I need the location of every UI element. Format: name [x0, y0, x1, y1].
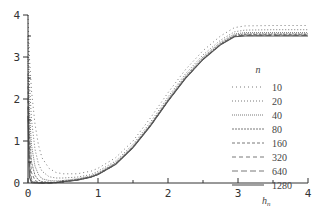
axes-group: 0123401234	[13, 9, 311, 200]
legend-label-80: 80	[272, 124, 282, 135]
x-tick-label: 2	[165, 187, 172, 200]
curves-group	[28, 15, 308, 183]
y-tick-label: 3	[13, 51, 20, 64]
x-tick-label: 1	[95, 187, 102, 200]
legend-label-160: 160	[272, 138, 287, 149]
legend-title: n	[256, 64, 261, 75]
series-line-160	[28, 35, 308, 183]
y-tick-label: 4	[13, 9, 20, 22]
legend-label-320: 320	[272, 152, 287, 163]
series-line-80	[28, 34, 308, 182]
x-tick-label: 0	[25, 187, 32, 200]
chart: 0123401234 n102040801603206401280 hn	[0, 0, 320, 210]
legend: n102040801603206401280	[232, 64, 292, 191]
y-tick-label: 0	[13, 177, 20, 190]
x-tick-label: 4	[305, 187, 312, 200]
legend-label-40: 40	[272, 110, 282, 121]
legend-label-10: 10	[272, 82, 282, 93]
series-line-320	[28, 35, 308, 183]
legend-label-1280: 1280	[272, 180, 292, 191]
legend-label-20: 20	[272, 96, 282, 107]
y-tick-label: 1	[13, 135, 20, 148]
series-line-10	[28, 15, 308, 174]
series-line-640	[28, 36, 308, 183]
series-line-20	[28, 30, 308, 178]
x-axis-title: hn	[262, 195, 271, 208]
y-tick-label: 2	[13, 93, 20, 106]
series-line-1280	[28, 36, 308, 183]
x-tick-label: 3	[235, 187, 242, 200]
legend-label-640: 640	[272, 166, 287, 177]
series-line-40	[28, 33, 308, 181]
